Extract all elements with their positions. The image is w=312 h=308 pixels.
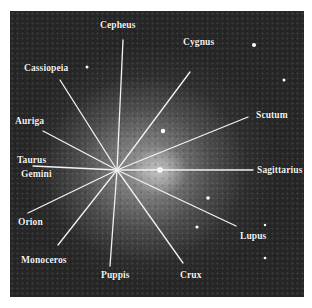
label-taurus: Taurus <box>17 155 46 165</box>
label-monoceros: Monoceros <box>21 255 67 265</box>
label-auriga: Auriga <box>15 116 44 126</box>
star <box>206 196 210 200</box>
ray-cassiopeia <box>60 80 117 170</box>
ray-puppis <box>110 170 117 266</box>
ray-lupus <box>117 170 236 226</box>
star <box>283 79 286 82</box>
label-orion: Orion <box>18 217 43 227</box>
star <box>252 43 256 47</box>
ray-monoceros <box>58 170 117 245</box>
label-gemini: Gemini <box>21 169 52 179</box>
ray-auriga <box>43 131 117 170</box>
star <box>195 225 198 228</box>
label-cassiopeia: Cassiopeia <box>24 63 68 73</box>
label-lupus: Lupus <box>240 231 266 241</box>
ray-crux <box>117 170 183 263</box>
star <box>264 224 266 226</box>
label-cygnus: Cygnus <box>183 37 214 47</box>
ray-cepheus <box>117 40 123 170</box>
label-puppis: Puppis <box>101 270 130 280</box>
star <box>264 257 267 260</box>
label-scutum: Scutum <box>256 110 288 120</box>
star <box>161 129 165 133</box>
label-cepheus: Cepheus <box>100 20 136 30</box>
label-crux: Crux <box>180 270 202 280</box>
star <box>86 66 89 69</box>
label-sagittarius: Sagittarius <box>257 165 302 175</box>
